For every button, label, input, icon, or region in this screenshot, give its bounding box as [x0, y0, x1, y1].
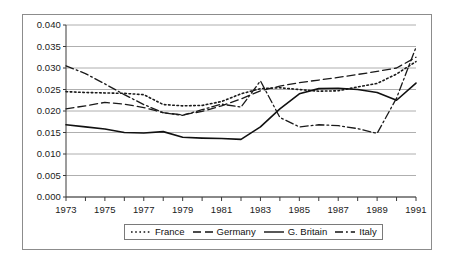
chart-frame: 0.0400.0350.0300.0250.0200.0150.0100.005… [22, 14, 432, 250]
x-tick-label: 1983 [243, 204, 277, 215]
chart-legend: FranceGermanyG. BritainItaly [124, 224, 383, 240]
x-tick-label: 1973 [49, 204, 83, 215]
y-tick-label: 0.010 [23, 148, 61, 159]
legend-label: Germany [217, 227, 256, 237]
y-tick-label: 0.030 [23, 62, 61, 73]
x-tick-label: 1981 [205, 204, 239, 215]
y-tick-label: 0.015 [23, 127, 61, 138]
y-tick-label: 0.020 [23, 105, 61, 116]
legend-swatch-solid [263, 228, 285, 236]
x-tick-label: 1987 [321, 204, 355, 215]
legend-label: France [155, 227, 185, 237]
x-tick-label: 1985 [282, 204, 316, 215]
x-tick-label: 1975 [88, 204, 122, 215]
x-tick-label: 1989 [360, 204, 394, 215]
y-tick-label: 0.040 [23, 19, 61, 30]
x-tick-label: 1977 [127, 204, 161, 215]
y-tick-label: 0.005 [23, 170, 61, 181]
legend-label: G. Britain [288, 227, 328, 237]
legend-item-italy: Italy [334, 227, 376, 237]
legend-label: Italy [359, 227, 376, 237]
legend-item-germany: Germany [192, 227, 256, 237]
y-tick-label: 0.000 [23, 191, 61, 202]
legend-swatch-dashdot [334, 228, 356, 236]
y-tick-label: 0.025 [23, 84, 61, 95]
y-tick-label: 0.035 [23, 41, 61, 52]
legend-swatch-dashed [192, 228, 214, 236]
line-chart-plot [23, 15, 433, 251]
x-tick-label: 1979 [166, 204, 200, 215]
legend-swatch-dotted [130, 228, 152, 236]
legend-item-g-britain: G. Britain [263, 227, 328, 237]
x-tick-label: 1991 [399, 204, 433, 215]
legend-item-france: France [130, 227, 185, 237]
